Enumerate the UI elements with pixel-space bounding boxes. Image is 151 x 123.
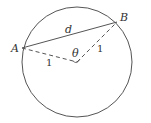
label-point-a: A (10, 42, 19, 55)
circle-chord-diagram: A B d θ 1 1 (0, 0, 151, 123)
diagram-svg: A B d θ 1 1 (0, 0, 151, 123)
label-angle-theta: θ (72, 47, 79, 60)
label-radius-left: 1 (46, 57, 52, 68)
radius-to-b (77, 22, 117, 62)
label-radius-right: 1 (97, 43, 103, 54)
label-point-b: B (119, 11, 128, 24)
label-chord-d: d (65, 23, 72, 36)
